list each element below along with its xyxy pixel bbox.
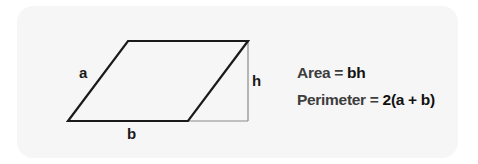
side-label-a: a xyxy=(79,64,88,81)
area-formula-label: Area = xyxy=(297,64,347,81)
base-label-b: b xyxy=(127,125,136,142)
perimeter-formula: Perimeter = 2(a + b) xyxy=(297,86,435,113)
area-formula-value: bh xyxy=(347,64,365,81)
formulas-block: Area = bh Perimeter = 2(a + b) xyxy=(297,59,435,113)
area-formula: Area = bh xyxy=(297,59,435,86)
height-label-h: h xyxy=(252,72,261,89)
perimeter-formula-label: Perimeter = xyxy=(297,91,383,108)
perimeter-formula-value: 2(a + b) xyxy=(383,91,435,108)
parallelogram-outline xyxy=(68,41,248,121)
